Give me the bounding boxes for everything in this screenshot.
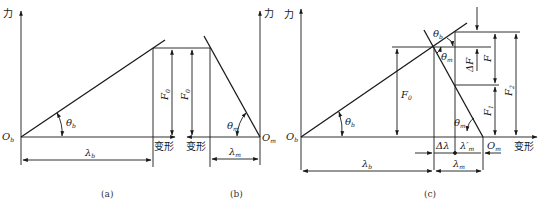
deformation-label-b: 变形 bbox=[186, 140, 206, 152]
F0-label-a: F0 bbox=[159, 89, 171, 101]
bolt-joint-force-deformation-diagram: 力 Ob θb λb F0 变形 (a) 力 F0 变形 θm Om λm (b… bbox=[0, 0, 543, 210]
lambda-m-prime-label-c: λ′m bbox=[459, 140, 475, 152]
theta-m-label-b: θm bbox=[227, 120, 239, 132]
origin-b-label-c: Ob bbox=[286, 131, 298, 143]
force-axis-label-c: 力 bbox=[284, 8, 294, 20]
panel-c bbox=[301, 7, 537, 171]
F2-label-c: F2 bbox=[503, 85, 515, 97]
bolt-stiffness-line bbox=[21, 40, 165, 137]
theta-m-high-label-c: θm bbox=[441, 51, 453, 63]
lambda-m-label-b: λm bbox=[228, 146, 241, 158]
theta-b-high-label-c: θb bbox=[433, 28, 443, 40]
F0-label-b: F0 bbox=[179, 89, 191, 101]
bolt-stiffness-line-c bbox=[301, 23, 467, 137]
angle-arc-theta-b-high-c bbox=[447, 38, 453, 46]
lambda-b-label-c: λb bbox=[361, 158, 372, 170]
lambda-b-label-a: λb bbox=[84, 147, 95, 159]
theta-b-low-label-c: θb bbox=[345, 116, 355, 128]
force-axis-label-b: 力 bbox=[264, 7, 274, 19]
origin-m-label-c: Om bbox=[487, 140, 501, 152]
origin-b-label-a: Ob bbox=[2, 131, 14, 143]
origin-m-label-b: Om bbox=[262, 132, 276, 144]
lambda-m-label-c: λm bbox=[452, 158, 465, 170]
panel-a bbox=[21, 11, 211, 167]
F-label-c: F bbox=[482, 54, 493, 63]
caption-a: (a) bbox=[101, 189, 113, 199]
lambda-m-prime-dot bbox=[454, 152, 457, 155]
theta-m-low-label-c: θm bbox=[454, 117, 466, 129]
F0-label-c: F0 bbox=[400, 89, 412, 101]
caption-c: (c) bbox=[424, 189, 436, 199]
F1-label-c: F1 bbox=[482, 105, 494, 117]
angle-arc-theta-b bbox=[57, 113, 62, 136]
delta-lambda-label-c: Δλ bbox=[435, 140, 450, 151]
angle-arc-theta-b-low-c bbox=[339, 112, 342, 136]
deformation-label-c: 变形 bbox=[514, 140, 534, 152]
delta-F-label-c: ΔF bbox=[464, 57, 475, 73]
deformation-label-a: 变形 bbox=[154, 140, 174, 152]
force-axis-label-a: 力 bbox=[3, 7, 13, 19]
caption-b: (b) bbox=[230, 189, 243, 199]
theta-b-label-a: θb bbox=[66, 117, 76, 129]
